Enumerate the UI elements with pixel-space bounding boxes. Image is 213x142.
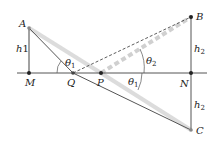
label-p: P [97, 78, 104, 88]
point-n [189, 71, 193, 75]
point-b [189, 15, 193, 19]
arc-theta1-left [57, 61, 61, 73]
reflection-diagram [0, 0, 213, 142]
label-b: B [196, 12, 203, 22]
label-h1: h1 [16, 44, 29, 54]
label-theta1-right: θ1 [128, 77, 139, 89]
point-c [189, 128, 193, 132]
point-p [99, 71, 103, 75]
label-m: M [25, 78, 35, 88]
label-n: N [180, 79, 189, 89]
label-a: A [19, 19, 26, 29]
label-h2-bottom: h2 [194, 100, 205, 112]
label-theta1-left: θ1 [65, 58, 76, 70]
highlight-path-p-c [101, 73, 191, 130]
label-q: Q [67, 78, 75, 88]
label-theta2: θ2 [146, 56, 157, 68]
point-q [71, 71, 75, 75]
arc-theta2 [140, 49, 144, 73]
arc-theta1-right [138, 73, 142, 90]
label-c: C [196, 126, 204, 136]
point-a [27, 26, 31, 30]
point-m [27, 71, 31, 75]
label-h2-top: h2 [194, 44, 205, 56]
